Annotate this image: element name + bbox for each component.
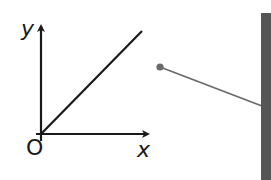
origin-label: O <box>26 135 43 160</box>
diagram-canvas: y O x <box>0 0 271 180</box>
string <box>160 67 262 106</box>
graph-line <box>41 31 142 134</box>
graph: y O x <box>20 16 151 162</box>
wall <box>261 13 271 180</box>
ball <box>156 63 163 70</box>
pendulum <box>156 63 262 106</box>
x-axis-label: x <box>136 137 151 162</box>
y-axis-label: y <box>20 16 35 41</box>
